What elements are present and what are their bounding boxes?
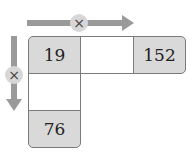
cell-top-right: 152	[133, 36, 186, 74]
cell-bottom-left: 76	[28, 110, 81, 148]
horizontal-arrow-head-icon	[122, 15, 134, 31]
multiply-operator-horizontal: ×	[70, 14, 88, 32]
multiply-operator-vertical: ×	[5, 66, 23, 84]
cell-top-left: 19	[28, 36, 81, 74]
vertical-arrow-head-icon	[6, 99, 22, 111]
cell-middle-left[interactable]	[28, 73, 81, 111]
cell-top-middle[interactable]	[80, 36, 134, 74]
